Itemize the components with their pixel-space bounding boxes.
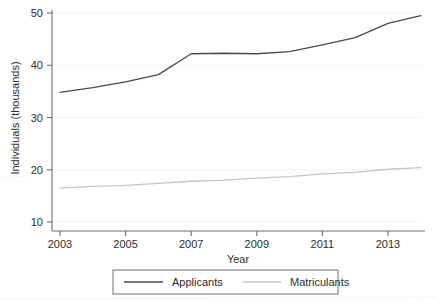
x-tick-label: 2005 bbox=[113, 238, 137, 250]
legend-label-matriculants: Matriculants bbox=[290, 276, 350, 288]
x-tick-label: 2007 bbox=[179, 238, 203, 250]
chart-legend: Applicants Matriculants bbox=[113, 270, 350, 294]
chart-figure: 50 40 30 20 10 Individuals (thousands) 2… bbox=[0, 0, 437, 301]
y-tick-label: 50 bbox=[31, 7, 43, 19]
chart-background bbox=[0, 0, 437, 301]
y-tick-label: 40 bbox=[31, 59, 43, 71]
legend-label-applicants: Applicants bbox=[172, 276, 223, 288]
y-tick-label: 10 bbox=[31, 216, 43, 228]
x-axis-title: Year bbox=[227, 253, 250, 265]
x-tick-label: 2013 bbox=[376, 238, 400, 250]
x-tick-label: 2011 bbox=[311, 238, 335, 250]
line-chart-svg: 50 40 30 20 10 Individuals (thousands) 2… bbox=[0, 0, 437, 301]
y-tick-label: 20 bbox=[31, 164, 43, 176]
x-tick-label: 2003 bbox=[48, 238, 72, 250]
y-tick-label: 30 bbox=[31, 112, 43, 124]
y-axis-title: Individuals (thousands) bbox=[9, 61, 21, 174]
x-tick-label: 2009 bbox=[245, 238, 269, 250]
